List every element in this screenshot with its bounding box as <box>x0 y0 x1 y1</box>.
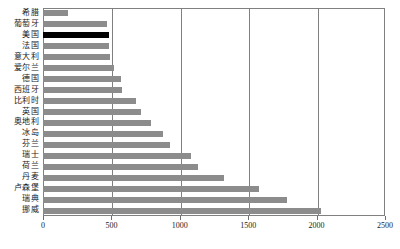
bar-row <box>43 161 385 172</box>
tick-label-1000: 1000 <box>172 221 188 230</box>
bar-荷兰 <box>43 164 198 170</box>
category-label-瑞典: 瑞典 <box>22 194 39 205</box>
bar-卢森堡 <box>43 186 259 192</box>
category-label-西班牙: 西班牙 <box>14 85 40 96</box>
bars-container <box>43 8 385 216</box>
category-axis-labels: 希腊葡萄牙美国法国意大利爱尔兰德国西班牙比利时英国奥地利冰岛芬兰瑞士荷兰丹麦卢森… <box>0 8 41 216</box>
category-label-荷兰: 荷兰 <box>22 161 39 172</box>
bar-丹麦 <box>43 175 224 181</box>
bar-row <box>43 63 385 74</box>
bar-冰岛 <box>43 131 163 137</box>
bar-意大利 <box>43 54 110 60</box>
category-label-美国: 美国 <box>22 30 39 41</box>
category-label-挪威: 挪威 <box>22 205 39 216</box>
category-label-卢森堡: 卢森堡 <box>14 183 40 194</box>
bar-美国 <box>43 32 109 38</box>
bar-chart: 希腊葡萄牙美国法国意大利爱尔兰德国西班牙比利时英国奥地利冰岛芬兰瑞士荷兰丹麦卢森… <box>0 0 400 249</box>
bar-爱尔兰 <box>43 65 114 71</box>
bar-row <box>43 85 385 96</box>
bar-英国 <box>43 109 141 115</box>
category-label-爱尔兰: 爱尔兰 <box>14 63 40 74</box>
bar-row <box>43 30 385 41</box>
bar-row <box>43 19 385 30</box>
bar-挪威 <box>43 208 321 214</box>
bar-row <box>43 74 385 85</box>
category-label-德国: 德国 <box>22 74 39 85</box>
bar-row <box>43 52 385 63</box>
bar-瑞典 <box>43 197 287 203</box>
category-label-英国: 英国 <box>22 107 39 118</box>
tick-label-2500: 2500 <box>377 221 393 230</box>
bar-葡萄牙 <box>43 21 107 27</box>
tick-label-2000: 2000 <box>309 221 325 230</box>
bar-row <box>43 183 385 194</box>
bar-比利时 <box>43 98 136 104</box>
category-label-葡萄牙: 葡萄牙 <box>14 19 40 30</box>
bar-row <box>43 128 385 139</box>
category-label-比利时: 比利时 <box>14 96 40 107</box>
x-axis-ticks: 05001000150020002500 <box>0 216 400 236</box>
tick-mark <box>43 216 44 220</box>
category-label-丹麦: 丹麦 <box>22 172 39 183</box>
bar-芬兰 <box>43 142 170 148</box>
bar-瑞士 <box>43 153 191 159</box>
bar-row <box>43 205 385 216</box>
category-label-冰岛: 冰岛 <box>22 128 39 139</box>
bar-row <box>43 41 385 52</box>
category-label-希腊: 希腊 <box>22 8 39 19</box>
bar-row <box>43 150 385 161</box>
tick-mark <box>385 216 386 220</box>
category-label-瑞士: 瑞士 <box>22 150 39 161</box>
bar-row <box>43 172 385 183</box>
bar-法国 <box>43 43 109 49</box>
category-label-奥地利: 奥地利 <box>14 117 40 128</box>
bar-奥地利 <box>43 120 151 126</box>
bar-希腊 <box>43 10 68 16</box>
tick-mark <box>111 216 112 220</box>
tick-label-1500: 1500 <box>240 221 256 230</box>
category-label-意大利: 意大利 <box>14 52 40 63</box>
bar-row <box>43 117 385 128</box>
bar-row <box>43 107 385 118</box>
bar-西班牙 <box>43 87 122 93</box>
tick-label-500: 500 <box>105 221 117 230</box>
bar-row <box>43 8 385 19</box>
category-label-芬兰: 芬兰 <box>22 139 39 150</box>
bar-德国 <box>43 76 121 82</box>
bar-row <box>43 96 385 107</box>
tick-mark <box>317 216 318 220</box>
tick-mark <box>248 216 249 220</box>
bar-row <box>43 139 385 150</box>
tick-mark <box>180 216 181 220</box>
bar-row <box>43 194 385 205</box>
category-label-法国: 法国 <box>22 41 39 52</box>
tick-label-0: 0 <box>41 221 45 230</box>
